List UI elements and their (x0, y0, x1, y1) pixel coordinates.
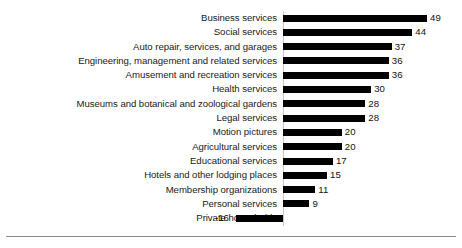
bar-value-label: 28 (368, 97, 379, 111)
category-label: Motion pictures (213, 125, 277, 139)
chart-row: Museums and botanical and zoological gar… (0, 97, 462, 111)
category-label: Social services (214, 25, 277, 39)
category-label: Legal services (216, 111, 277, 125)
bar-track: 11 (283, 183, 462, 197)
bar (236, 215, 283, 222)
bar-track: 49 (283, 11, 462, 25)
bar (283, 57, 389, 64)
bar (283, 100, 365, 107)
bar-track: 44 (283, 25, 462, 39)
chart-row: Social services44 (0, 25, 462, 39)
bar (283, 158, 333, 165)
bar-value-label: 28 (368, 111, 379, 125)
category-label: Educational services (190, 154, 277, 168)
bar-track: 15 (283, 168, 462, 182)
bar-value-label: 17 (336, 154, 347, 168)
bar (283, 200, 309, 207)
bar-value-label: 20 (345, 140, 356, 154)
category-label: Personal services (202, 197, 277, 211)
bar-value-label: 9 (312, 197, 317, 211)
bar-track: 20 (283, 125, 462, 139)
chart-row: Engineering, management and related serv… (0, 54, 462, 68)
bar-track: 36 (283, 54, 462, 68)
category-label: Auto repair, services, and garages (133, 40, 277, 54)
bar-track: 28 (283, 111, 462, 125)
bottom-divider-rule (6, 236, 456, 237)
bar (283, 186, 315, 193)
bar (283, 143, 342, 150)
bar (283, 115, 365, 122)
bar (283, 129, 342, 136)
horizontal-bar-chart: Business services49Social services44Auto… (0, 0, 462, 248)
chart-row: Private households-16 (0, 211, 462, 225)
bar (283, 86, 371, 93)
bar-value-label: -16 (215, 211, 229, 225)
category-label: Hotels and other lodging places (144, 168, 277, 182)
bar-value-label: 36 (392, 54, 403, 68)
category-label: Agricultural services (192, 140, 277, 154)
bar-value-label: 15 (330, 168, 341, 182)
bar (283, 72, 389, 79)
bar-value-label: 37 (395, 40, 406, 54)
bar-track: 28 (283, 97, 462, 111)
bar-value-label: 30 (374, 82, 385, 96)
chart-row: Motion pictures20 (0, 125, 462, 139)
chart-row: Agricultural services20 (0, 140, 462, 154)
bar-value-label: 36 (392, 68, 403, 82)
bar-value-label: 20 (345, 125, 356, 139)
chart-row: Membership organizations11 (0, 183, 462, 197)
category-label: Engineering, management and related serv… (78, 54, 277, 68)
bar-track: 17 (283, 154, 462, 168)
bar (283, 172, 327, 179)
chart-row: Hotels and other lodging places15 (0, 168, 462, 182)
bar-value-label: 44 (415, 25, 426, 39)
chart-row: Auto repair, services, and garages37 (0, 40, 462, 54)
chart-row: Personal services9 (0, 197, 462, 211)
bar (283, 29, 412, 36)
bar-track: 9 (283, 197, 462, 211)
category-label: Health services (212, 82, 277, 96)
bar-track: -16 (283, 211, 462, 225)
chart-row: Educational services17 (0, 154, 462, 168)
bar-track: 36 (283, 68, 462, 82)
category-label: Business services (201, 11, 277, 25)
category-label: Membership organizations (166, 183, 277, 197)
chart-row: Health services30 (0, 82, 462, 96)
bar (283, 43, 392, 50)
bar (283, 15, 427, 22)
bar-track: 30 (283, 82, 462, 96)
chart-row: Legal services28 (0, 111, 462, 125)
category-label: Museums and botanical and zoological gar… (77, 97, 277, 111)
bar-track: 37 (283, 40, 462, 54)
chart-rows: Business services49Social services44Auto… (0, 11, 462, 225)
chart-row: Amusement and recreation services36 (0, 68, 462, 82)
category-label: Amusement and recreation services (126, 68, 277, 82)
bar-value-label: 49 (430, 11, 441, 25)
bar-value-label: 11 (318, 183, 328, 197)
chart-row: Business services49 (0, 11, 462, 25)
bar-track: 20 (283, 140, 462, 154)
